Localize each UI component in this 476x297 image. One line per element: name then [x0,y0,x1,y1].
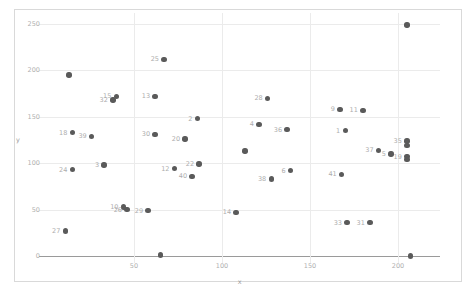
data-point-label: 26 [114,206,122,214]
data-point[interactable] [344,220,349,225]
gridline-vertical [134,13,135,264]
data-point-label: 12 [161,165,169,173]
data-point-label: 5 [382,150,386,158]
data-point[interactable] [256,122,261,127]
data-point-label: 6 [281,167,285,175]
gridline-horizontal [39,24,440,25]
gridline-horizontal [39,70,440,71]
data-point-label: 20 [172,135,180,143]
data-point[interactable] [145,208,150,213]
data-point-label: 27 [52,227,60,235]
y-axis-tick-label: 50 [8,206,40,214]
data-point[interactable] [343,128,348,133]
y-axis-tick-label: 250 [8,20,40,28]
data-point-label: 9 [331,105,335,113]
data-point-label: 13 [142,92,150,100]
plot-area: 05010015020025050100150200xy251532132891… [0,0,476,297]
data-point[interactable] [110,97,115,102]
data-point[interactable] [288,168,293,173]
data-point[interactable] [265,96,270,101]
data-point[interactable] [404,22,409,27]
y-axis-tick-label: 150 [8,113,40,121]
data-point-label: 32 [100,96,108,104]
data-point-label: 2 [188,115,192,123]
data-point[interactable] [408,253,413,258]
data-point[interactable] [124,207,129,212]
gridline-vertical [222,13,223,264]
data-point-label: 41 [328,170,336,178]
data-point[interactable] [269,176,274,181]
data-point[interactable] [233,210,238,215]
data-point-label: 35 [394,137,402,145]
data-point-label: 14 [223,208,231,216]
data-point[interactable] [158,252,163,257]
data-point-label: 11 [350,106,358,114]
data-point-label: 28 [254,94,262,102]
data-point-label: 1 [336,127,340,135]
data-point[interactable] [182,136,187,141]
data-point[interactable] [339,172,344,177]
gridline-horizontal [39,117,440,118]
x-axis-tick-label: 150 [300,262,320,270]
data-point-label: 24 [59,166,67,174]
data-point[interactable] [360,108,365,113]
data-point[interactable] [376,148,381,153]
data-point-label: 40 [179,172,187,180]
data-point-label: 25 [151,55,159,63]
y-axis-title: y [16,136,20,144]
data-point[interactable] [70,130,75,135]
data-point-label: 22 [186,160,194,168]
data-point[interactable] [101,162,106,167]
data-point[interactable] [63,228,68,233]
data-point[interactable] [242,148,247,153]
data-point[interactable] [404,157,409,162]
data-point[interactable] [196,161,201,166]
x-axis-tick-label: 200 [388,262,408,270]
gridline-horizontal [39,163,440,164]
data-point[interactable] [161,57,166,62]
gridline-vertical [310,13,311,264]
data-point[interactable] [172,166,177,171]
scatter-plot-screenshot: 05010015020025050100150200xy251532132891… [0,0,476,297]
y-axis-tick-label: 0 [8,252,40,260]
data-point[interactable] [404,143,409,148]
data-point-label: 38 [258,175,266,183]
data-point-label: 4 [250,120,254,128]
data-point[interactable] [195,116,200,121]
x-axis-title: x [230,278,250,286]
data-point-label: 31 [357,219,365,227]
data-point-label: 30 [142,130,150,138]
data-point[interactable] [367,220,372,225]
data-point-label: 39 [78,132,86,140]
data-point[interactable] [189,174,194,179]
gridline-horizontal [39,210,440,211]
data-point[interactable] [70,167,75,172]
x-axis-tick-label: 50 [124,262,144,270]
y-axis-tick-label: 200 [8,66,40,74]
data-point-label: 37 [365,146,373,154]
data-point[interactable] [66,72,71,77]
x-axis-tick-label: 100 [212,262,232,270]
data-point[interactable] [337,107,342,112]
y-axis-tick-label: 100 [8,159,40,167]
data-point-label: 3 [95,161,99,169]
data-point-label: 33 [334,219,342,227]
data-point-label: 18 [59,129,67,137]
data-point[interactable] [152,94,157,99]
gridline-horizontal [39,256,440,257]
data-point[interactable] [89,134,94,139]
data-point-label: 29 [135,207,143,215]
data-point-label: 19 [394,153,402,161]
data-point[interactable] [284,127,289,132]
data-point[interactable] [152,132,157,137]
data-point-label: 36 [274,126,282,134]
